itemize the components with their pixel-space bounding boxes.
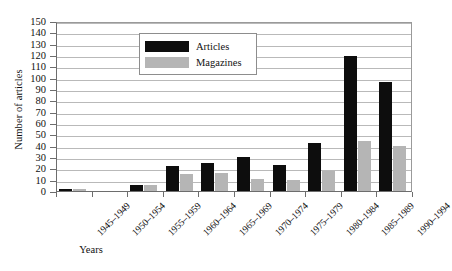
x-tick-mark xyxy=(376,192,377,197)
legend-label: Magazines xyxy=(196,57,241,68)
legend-swatch-articles xyxy=(145,41,189,52)
y-tick-label: 70 xyxy=(12,108,46,118)
y-tick-label: 20 xyxy=(12,164,46,174)
legend: ArticlesMagazines xyxy=(139,33,257,75)
y-axis-ticks: 0102030405060708090100110120130140150 xyxy=(0,22,56,192)
y-tick-label: 90 xyxy=(12,85,46,95)
bar-magazines xyxy=(180,174,193,191)
bar-group xyxy=(306,23,342,191)
bar-articles xyxy=(237,157,250,191)
y-tick-label: 120 xyxy=(12,51,46,61)
legend-item: Magazines xyxy=(145,54,251,70)
legend-item: Articles xyxy=(145,38,251,54)
x-tick-mark xyxy=(270,192,271,197)
x-tick-mark xyxy=(234,192,235,197)
y-tick-label: 0 xyxy=(12,187,46,197)
x-tick-mark xyxy=(412,192,413,197)
x-tick-mark xyxy=(341,192,342,197)
x-tick-label: 1980–1984 xyxy=(343,200,381,238)
bar-magazines xyxy=(251,179,264,191)
y-tick-label: 150 xyxy=(12,17,46,27)
bar-group xyxy=(377,23,413,191)
bar-articles xyxy=(201,163,214,191)
x-tick-mark xyxy=(92,192,93,197)
bar-articles xyxy=(344,56,357,191)
x-tick-label: 1990–1994 xyxy=(414,200,452,238)
bar-articles xyxy=(379,82,392,191)
x-tick-mark xyxy=(163,192,164,197)
x-tick-label: 1965–1969 xyxy=(236,200,274,238)
bar-magazines xyxy=(393,146,406,191)
x-tick-label: 1945–1949 xyxy=(94,200,132,238)
bar-articles xyxy=(273,165,286,191)
bar-articles xyxy=(308,143,321,191)
bar-magazines xyxy=(215,173,228,191)
y-tick-label: 40 xyxy=(12,142,46,152)
x-tick-mark xyxy=(198,192,199,197)
y-tick-label: 130 xyxy=(12,40,46,50)
x-tick-mark xyxy=(127,192,128,197)
bar-group xyxy=(342,23,378,191)
y-tick-label: 10 xyxy=(12,176,46,186)
y-tick-label: 100 xyxy=(12,74,46,84)
x-axis-ticks: 1945–19491950–19541955–19591960–19641965… xyxy=(56,192,412,271)
legend-label: Articles xyxy=(196,41,229,52)
bar-magazines xyxy=(144,185,157,191)
y-tick-label: 60 xyxy=(12,119,46,129)
y-tick-label: 80 xyxy=(12,96,46,106)
y-tick-label: 50 xyxy=(12,130,46,140)
x-tick-label: 1950–1954 xyxy=(130,200,168,238)
y-tick-label: 30 xyxy=(12,153,46,163)
x-tick-mark xyxy=(56,192,57,197)
bar-group xyxy=(93,23,129,191)
x-tick-label: 1955–1959 xyxy=(165,200,203,238)
x-tick-label: 1970–1974 xyxy=(272,200,310,238)
bar-articles xyxy=(59,189,72,191)
bar-magazines xyxy=(322,171,335,191)
x-tick-mark xyxy=(305,192,306,197)
y-tick-label: 140 xyxy=(12,28,46,38)
bar-group xyxy=(57,23,93,191)
bar-group xyxy=(271,23,307,191)
bar-magazines xyxy=(287,180,300,191)
x-tick-label: 1975–1979 xyxy=(308,200,346,238)
x-axis-title: Years xyxy=(56,244,126,255)
bar-magazines xyxy=(358,141,371,191)
legend-swatch-magazines xyxy=(145,57,189,68)
bar-articles xyxy=(130,185,143,191)
y-tick-label: 110 xyxy=(12,62,46,72)
x-tick-label: 1960–1964 xyxy=(201,200,239,238)
x-tick-label: 1985–1989 xyxy=(379,200,417,238)
bar-magazines xyxy=(73,189,86,191)
bar-articles xyxy=(166,166,179,191)
